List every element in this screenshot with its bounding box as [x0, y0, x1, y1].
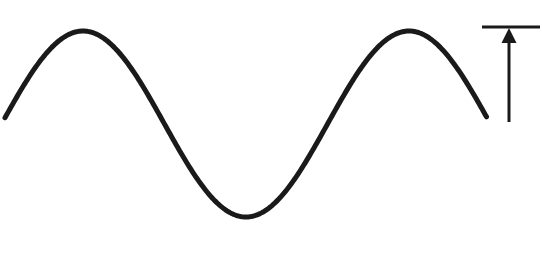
figure-background — [0, 0, 542, 255]
sine-wave-diagram — [0, 0, 542, 255]
figure-root — [0, 0, 542, 255]
